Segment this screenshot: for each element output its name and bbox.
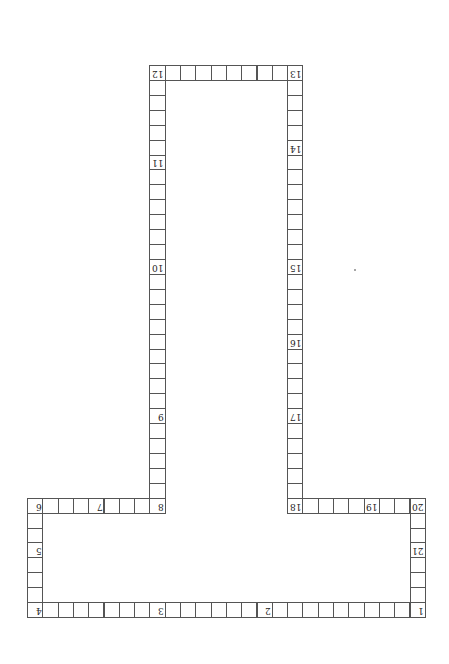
track-cell bbox=[88, 602, 104, 618]
track-cell bbox=[149, 393, 165, 409]
track-cell: 6 bbox=[27, 498, 43, 514]
track-cell bbox=[287, 349, 303, 365]
track-cell bbox=[241, 602, 257, 618]
track-cell bbox=[42, 602, 58, 618]
track-cell bbox=[364, 602, 380, 618]
track-cell bbox=[257, 65, 273, 81]
track-cell: 2 bbox=[257, 602, 273, 618]
track-cell bbox=[318, 602, 334, 618]
track-cell bbox=[165, 65, 181, 81]
track-cell bbox=[318, 498, 334, 514]
track-cell bbox=[180, 65, 196, 81]
track-cell bbox=[333, 602, 349, 618]
track-cell bbox=[27, 572, 43, 588]
cell-number-label: 4 bbox=[36, 606, 42, 615]
track-cell: 11 bbox=[149, 155, 165, 171]
track-cell bbox=[394, 498, 410, 514]
track-cell bbox=[302, 498, 318, 514]
track-cell: 18 bbox=[287, 498, 303, 514]
track-cell: 14 bbox=[287, 140, 303, 156]
stray-dot bbox=[354, 269, 356, 271]
cell-number-label: 10 bbox=[152, 262, 163, 271]
track-cell bbox=[27, 587, 43, 603]
track-cell bbox=[287, 453, 303, 469]
track-cell bbox=[287, 289, 303, 305]
track-cell bbox=[195, 602, 211, 618]
track-cell bbox=[58, 498, 74, 514]
track-cell bbox=[149, 319, 165, 335]
track-cell bbox=[149, 125, 165, 141]
track-cell bbox=[149, 184, 165, 200]
track-cell bbox=[287, 95, 303, 111]
track-cell bbox=[333, 498, 349, 514]
track-cell bbox=[149, 423, 165, 439]
track-cell bbox=[149, 438, 165, 454]
cell-number-label: 1 bbox=[418, 606, 424, 615]
track-cell bbox=[149, 229, 165, 245]
cell-number-label: 18 bbox=[290, 501, 301, 510]
cell-number-label: 8 bbox=[158, 501, 164, 510]
track-cell bbox=[149, 80, 165, 96]
track-cell bbox=[272, 65, 288, 81]
track-cell bbox=[104, 498, 120, 514]
track-cell: 12 bbox=[149, 65, 165, 81]
cell-number-label: 7 bbox=[97, 501, 103, 510]
track-cell bbox=[226, 65, 242, 81]
track-cell: 8 bbox=[149, 498, 165, 514]
cell-number-label: 19 bbox=[366, 501, 377, 510]
track-cell bbox=[149, 468, 165, 484]
track-cell bbox=[149, 169, 165, 185]
track-cell: 5 bbox=[27, 542, 43, 558]
track-cell bbox=[287, 483, 303, 499]
track-cell bbox=[165, 602, 181, 618]
track-cell bbox=[287, 169, 303, 185]
cell-number-label: 17 bbox=[290, 412, 301, 421]
cell-number-label: 3 bbox=[158, 606, 164, 615]
track-cell bbox=[410, 528, 426, 544]
track-cell bbox=[348, 498, 364, 514]
track-cell bbox=[211, 65, 227, 81]
track-cell bbox=[302, 602, 318, 618]
cell-number-label: 16 bbox=[290, 337, 301, 346]
track-cell bbox=[410, 557, 426, 573]
track-cell bbox=[149, 244, 165, 260]
track-cell bbox=[149, 110, 165, 126]
track-cell bbox=[226, 602, 242, 618]
track-cell bbox=[287, 155, 303, 171]
cell-number-label: 6 bbox=[36, 501, 42, 510]
track-cell bbox=[211, 602, 227, 618]
track-cell bbox=[149, 304, 165, 320]
cell-number-label: 12 bbox=[152, 68, 163, 77]
cell-number-label: 21 bbox=[412, 546, 423, 555]
track-cell: 21 bbox=[410, 542, 426, 558]
track-cell bbox=[348, 602, 364, 618]
track-cell bbox=[149, 140, 165, 156]
track-cell bbox=[27, 557, 43, 573]
track-cell: 17 bbox=[287, 408, 303, 424]
track-cell bbox=[287, 319, 303, 335]
cell-number-label: 20 bbox=[412, 501, 423, 510]
track-cell bbox=[287, 468, 303, 484]
track-cell bbox=[287, 199, 303, 215]
track-cell bbox=[195, 65, 211, 81]
track-cell bbox=[42, 498, 58, 514]
cell-number-label: 13 bbox=[290, 68, 301, 77]
track-cell: 10 bbox=[149, 259, 165, 275]
track-cell bbox=[410, 587, 426, 603]
track-cell bbox=[149, 289, 165, 305]
track-cell: 7 bbox=[88, 498, 104, 514]
track-cell: 1 bbox=[410, 602, 426, 618]
track-cell bbox=[287, 378, 303, 394]
track-cell bbox=[379, 602, 395, 618]
track-cell bbox=[287, 229, 303, 245]
cell-number-label: 14 bbox=[290, 143, 301, 152]
track-cell bbox=[180, 602, 196, 618]
track-cell bbox=[379, 498, 395, 514]
track-cell: 19 bbox=[364, 498, 380, 514]
track-cell bbox=[149, 483, 165, 499]
track-cell bbox=[287, 274, 303, 290]
track-cell bbox=[134, 602, 150, 618]
track-cell bbox=[119, 498, 135, 514]
track-cell bbox=[73, 498, 89, 514]
track-cell bbox=[287, 125, 303, 141]
